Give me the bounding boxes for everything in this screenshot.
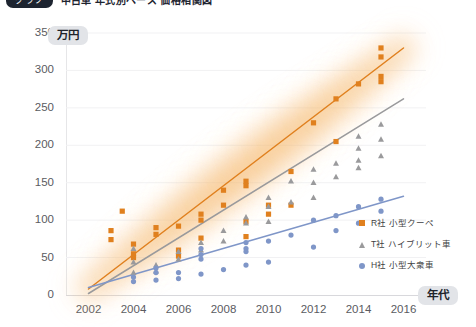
legend-item-label: R社 小型クーペ	[371, 218, 434, 228]
triangle-marker	[288, 199, 294, 205]
circle-marker	[153, 270, 158, 275]
triangle-marker	[311, 195, 317, 201]
square-marker	[198, 218, 203, 223]
circle-marker	[198, 271, 203, 276]
circle-marker	[243, 249, 248, 254]
legend-item[interactable]: R社 小型クーペ	[358, 218, 476, 228]
triangle-marker	[378, 136, 384, 142]
triangle-marker	[356, 133, 362, 139]
triangle-marker	[333, 160, 339, 166]
circle-marker	[198, 256, 203, 261]
triangle-marker	[356, 145, 362, 151]
square-marker	[333, 96, 338, 101]
triangle-marker	[333, 174, 339, 180]
circle-marker	[131, 274, 136, 279]
circle-marker	[198, 246, 203, 251]
square-marker	[266, 212, 271, 217]
chart-legend: R社 小型クーペT社 ハイブリット車H社 小型大衆車	[358, 218, 476, 270]
circle-marker	[176, 276, 181, 281]
scatter-chart: 050100150200250300350 200220042006200820…	[0, 0, 476, 327]
circle-marker	[131, 279, 136, 284]
circle-marker	[358, 261, 367, 270]
square-marker	[378, 79, 383, 84]
circle-marker	[356, 204, 361, 209]
square-marker	[288, 169, 293, 174]
circle-marker	[311, 244, 316, 249]
legend-item[interactable]: T社 ハイブリット車	[358, 239, 476, 249]
square-marker	[108, 228, 113, 233]
square-marker	[243, 179, 248, 184]
circle-marker	[266, 259, 271, 264]
circle-marker	[243, 262, 248, 267]
square-marker	[153, 232, 158, 237]
circle-marker	[378, 209, 383, 214]
square-marker	[221, 188, 226, 193]
square-marker	[108, 237, 113, 242]
square-marker	[198, 212, 203, 217]
square-marker	[311, 120, 316, 125]
triangle-marker	[378, 121, 384, 127]
circle-marker	[221, 267, 226, 272]
square-marker	[378, 74, 383, 79]
circle-marker	[153, 265, 158, 270]
circle-marker	[378, 197, 383, 202]
square-marker	[378, 45, 383, 50]
square-marker	[333, 139, 338, 144]
square-marker	[176, 224, 181, 229]
square-marker	[120, 209, 125, 214]
triangle-marker	[266, 219, 272, 225]
chart-canvas	[0, 0, 476, 327]
x-axis-unit-badge: 年代	[418, 286, 458, 305]
legend-item-label: H社 小型大衆車	[371, 260, 434, 270]
triangle-marker	[356, 165, 362, 171]
circle-marker	[176, 270, 181, 275]
circle-marker	[311, 218, 316, 223]
circle-marker	[333, 213, 338, 218]
square-marker	[356, 81, 361, 86]
circle-marker	[266, 239, 271, 244]
circle-marker	[243, 240, 248, 245]
circle-marker	[153, 277, 158, 282]
triangle-marker	[356, 157, 362, 163]
square-marker	[153, 225, 158, 230]
square-marker	[243, 234, 248, 239]
triangle-marker	[378, 153, 384, 159]
triangle-marker	[358, 240, 367, 249]
square-marker	[243, 183, 248, 188]
legend-item[interactable]: H社 小型大衆車	[358, 260, 476, 270]
circle-marker	[198, 252, 203, 257]
square-marker	[358, 219, 367, 228]
triangle-marker	[221, 238, 227, 244]
square-marker	[221, 203, 226, 208]
legend-item-label: T社 ハイブリット車	[371, 239, 452, 249]
circle-marker	[288, 233, 293, 238]
y-axis-unit-badge: 万円	[48, 26, 88, 45]
circle-marker	[333, 228, 338, 233]
square-marker	[378, 54, 383, 59]
